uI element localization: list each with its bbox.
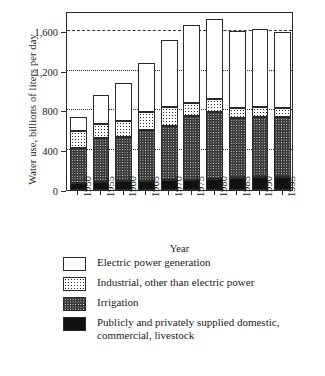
bar-segment-electric-1985 bbox=[229, 31, 246, 108]
bar-segment-industrial-1950 bbox=[70, 131, 87, 148]
bar-1960 bbox=[115, 13, 132, 190]
y-tick-0 bbox=[61, 191, 66, 192]
bar-segment-industrial-1995 bbox=[274, 108, 291, 117]
x-tick-label-1960: 1960 bbox=[127, 176, 138, 197]
x-tick-1965 bbox=[145, 191, 146, 195]
legend-item-industrial[interactable]: Industrial, other than electric power bbox=[63, 276, 321, 291]
plot-inner bbox=[67, 13, 292, 190]
plot-area bbox=[66, 12, 293, 191]
x-tick-1970 bbox=[168, 191, 169, 195]
x-tick-label-1970: 1970 bbox=[173, 176, 184, 197]
bar-segment-electric-1955 bbox=[93, 95, 110, 124]
bar-segment-irrigation-1965 bbox=[138, 130, 155, 180]
bar-segment-electric-1960 bbox=[115, 83, 132, 121]
y-tick-label-400: 400 bbox=[0, 146, 58, 157]
legend-swatch-electric bbox=[63, 257, 86, 271]
y-tick-label-0: 0 bbox=[0, 186, 58, 197]
bar-segment-electric-1980 bbox=[206, 19, 223, 99]
bar-segment-electric-1975 bbox=[183, 25, 200, 102]
bar-segment-industrial-1985 bbox=[229, 108, 246, 118]
x-tick-1980 bbox=[214, 191, 215, 195]
legend-swatch-irrigation bbox=[63, 297, 86, 311]
figure: Water use, billions of liters per day 04… bbox=[0, 0, 325, 376]
x-axis-title: Year bbox=[66, 243, 293, 254]
bar-segment-industrial-1975 bbox=[183, 103, 200, 116]
bar-1990 bbox=[252, 13, 269, 190]
y-tick-label-1600: 1,600 bbox=[0, 26, 58, 37]
bar-segment-industrial-1955 bbox=[93, 124, 110, 138]
legend-label-domestic: Publicly and privately supplied domestic… bbox=[97, 316, 279, 341]
bar-segment-industrial-1990 bbox=[252, 107, 269, 117]
legend-label-electric: Electric power generation bbox=[97, 256, 211, 269]
y-tick-400 bbox=[61, 151, 66, 152]
chart-legend: Electric power generationIndustrial, oth… bbox=[63, 256, 321, 346]
x-tick-label-1995: 1995 bbox=[286, 176, 297, 197]
bar-segment-industrial-1970 bbox=[161, 107, 178, 125]
bar-segment-irrigation-1985 bbox=[229, 118, 246, 178]
x-tick-label-1950: 1950 bbox=[82, 176, 93, 197]
y-tick-1200 bbox=[61, 72, 66, 73]
x-tick-1955 bbox=[100, 191, 101, 195]
x-tick-label-1980: 1980 bbox=[218, 176, 229, 197]
legend-label-irrigation: Irrigation bbox=[97, 296, 139, 309]
legend-label-industrial: Industrial, other than electric power bbox=[97, 276, 254, 289]
bar-segment-electric-1965 bbox=[138, 63, 155, 112]
x-tick-1995 bbox=[282, 191, 283, 195]
bar-1985 bbox=[229, 13, 246, 190]
x-tick-label-1990: 1990 bbox=[263, 176, 274, 197]
legend-swatch-industrial bbox=[63, 277, 86, 291]
legend-item-domestic[interactable]: Publicly and privately supplied domestic… bbox=[63, 316, 321, 341]
bar-segment-irrigation-1960 bbox=[115, 137, 132, 181]
y-tick-800 bbox=[61, 111, 66, 112]
bar-segment-irrigation-1975 bbox=[183, 116, 200, 180]
y-tick-label-800: 800 bbox=[0, 106, 58, 117]
x-tick-1985 bbox=[236, 191, 237, 195]
bar-segment-irrigation-1995 bbox=[274, 117, 291, 176]
bar-1965 bbox=[138, 13, 155, 190]
y-tick-label-1200: 1,200 bbox=[0, 66, 58, 77]
bar-segment-industrial-1960 bbox=[115, 121, 132, 137]
x-tick-label-1975: 1975 bbox=[195, 176, 206, 197]
bar-segment-electric-1995 bbox=[274, 32, 291, 108]
bar-1970 bbox=[161, 13, 178, 190]
bar-segment-industrial-1980 bbox=[206, 99, 223, 113]
x-tick-1990 bbox=[259, 191, 260, 195]
x-tick-label-1985: 1985 bbox=[241, 176, 252, 197]
bar-segment-industrial-1965 bbox=[138, 112, 155, 130]
bar-segment-irrigation-1980 bbox=[206, 112, 223, 178]
legend-item-electric[interactable]: Electric power generation bbox=[63, 256, 321, 271]
x-tick-1960 bbox=[123, 191, 124, 195]
bar-1995 bbox=[274, 13, 291, 190]
x-tick-label-1965: 1965 bbox=[150, 176, 161, 197]
legend-swatch-domestic bbox=[63, 317, 86, 331]
bar-1955 bbox=[93, 13, 110, 190]
bar-segment-electric-1990 bbox=[252, 29, 269, 107]
bar-segment-irrigation-1990 bbox=[252, 117, 269, 177]
y-tick-1600 bbox=[61, 32, 66, 33]
x-tick-1950 bbox=[77, 191, 78, 195]
bar-segment-electric-1950 bbox=[70, 117, 87, 131]
bar-segment-electric-1970 bbox=[161, 40, 178, 108]
bar-1975 bbox=[183, 13, 200, 190]
bar-1980 bbox=[206, 13, 223, 190]
x-tick-label-1955: 1955 bbox=[105, 176, 116, 197]
legend-item-irrigation[interactable]: Irrigation bbox=[63, 296, 321, 311]
bar-1950 bbox=[70, 13, 87, 190]
x-tick-1975 bbox=[191, 191, 192, 195]
bar-segment-irrigation-1970 bbox=[161, 126, 178, 180]
